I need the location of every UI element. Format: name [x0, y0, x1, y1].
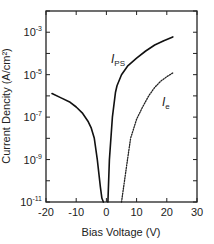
plot-frame: [46, 11, 197, 202]
x-tick-label: -20: [38, 206, 54, 218]
x-tick-label: -10: [68, 206, 84, 218]
chart: -20-100102030 10-1110-910-710-510-3 Bias…: [0, 0, 214, 244]
x-axis-label: Bias Voltage (V): [82, 226, 161, 238]
series-line-ie-branch-0: [122, 73, 173, 202]
y-axis-label: Current Dencity (A/cm²): [0, 48, 12, 164]
x-tick-label: 0: [103, 206, 109, 218]
series-line-ips-branch-0: [52, 94, 103, 203]
series-label-ie: Ie: [162, 95, 170, 111]
series-label-ips-sub: PS: [114, 59, 125, 68]
y-tick-label: 10-5: [24, 68, 43, 81]
x-tick-label: 30: [191, 206, 203, 218]
series-label-ie-sub: e: [165, 102, 170, 111]
x-tick-label: 10: [130, 206, 142, 218]
y-tick-label: 10-3: [24, 25, 43, 38]
series-label-ips: IPS: [111, 52, 125, 68]
y-tick-label: 10-7: [24, 110, 43, 123]
x-tick-label: 20: [161, 206, 173, 218]
x-axis-ticks: -20-100102030: [38, 11, 203, 218]
y-tick-label: 10-9: [24, 153, 43, 166]
